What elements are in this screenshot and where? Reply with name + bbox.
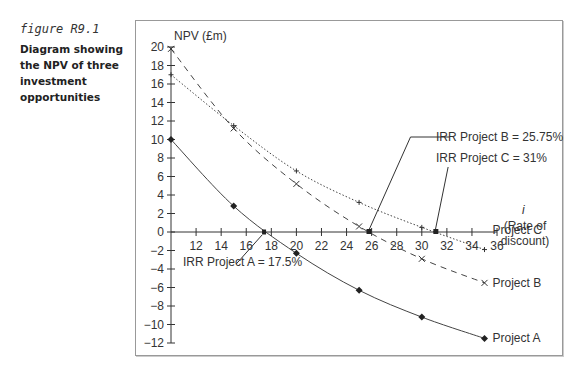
y-tick-label: −4 (150, 262, 164, 276)
x-axis-symbol: i (522, 203, 525, 217)
x-tick-label: 30 (415, 239, 429, 253)
x-tick-label: 16 (240, 239, 254, 253)
diamond-marker-icon (418, 314, 425, 321)
y-tick-label: 12 (151, 114, 165, 128)
y-axis-title: NPV (£m) (174, 29, 227, 43)
y-tick-label: 16 (151, 77, 165, 91)
plus-marker-icon (357, 200, 362, 205)
x-marker-icon (482, 280, 488, 286)
y-tick-label: −2 (150, 244, 164, 258)
irr-c-leader (435, 167, 448, 230)
y-tick-label: −10 (144, 318, 165, 332)
irr-b-label: IRR Project B = 25.75% (436, 130, 563, 144)
diamond-marker-icon (356, 287, 363, 294)
y-tick-label: 20 (151, 40, 165, 54)
x-marker-icon (419, 256, 425, 262)
y-tick-label: 2 (157, 207, 164, 221)
x-marker-icon (293, 181, 299, 187)
x-tick-label: 18 (265, 239, 279, 253)
x-axis-title-line1: (Rate of (504, 219, 547, 233)
y-tick-label: −12 (144, 336, 165, 350)
irr-b-marker-icon (367, 229, 372, 234)
plus-marker-icon (169, 72, 174, 77)
plus-marker-icon (482, 247, 487, 252)
x-tick-label: 32 (440, 239, 454, 253)
irr-c-label: IRR Project C = 31% (436, 151, 547, 165)
npv-chart: 20181614121086420−2−4−6−8−10−12121416182… (0, 0, 588, 378)
plus-marker-icon (294, 168, 299, 173)
plus-marker-icon (419, 225, 424, 230)
x-tick-label: 34 (465, 239, 479, 253)
x-tick-label: 24 (340, 239, 354, 253)
y-tick-label: 6 (157, 170, 164, 184)
axes: 20181614121086420−2−4−6−8−10−12121416182… (144, 40, 504, 350)
y-tick-label: 0 (157, 225, 164, 239)
y-tick-label: −6 (150, 281, 164, 295)
x-tick-label: 28 (390, 239, 404, 253)
diamond-marker-icon (481, 335, 488, 342)
y-tick-label: −8 (150, 299, 164, 313)
irr-a-label: IRR Project A = 17.5% (183, 255, 302, 269)
y-tick-label: 18 (151, 59, 165, 73)
y-tick-label: 4 (157, 188, 164, 202)
y-tick-label: 10 (151, 133, 165, 147)
x-axis-title-line2: discount) (501, 234, 550, 248)
y-tick-label: 8 (157, 151, 164, 165)
series-lines: Project AProject BProject C (168, 46, 543, 346)
irr-a-marker-icon (262, 230, 266, 235)
project-b-legend-label: Project B (493, 276, 542, 290)
irr-c-marker-icon (433, 229, 438, 234)
x-tick-label: 14 (214, 239, 228, 253)
project-a-legend-label: Project A (493, 331, 541, 345)
x-tick-label: 22 (315, 239, 329, 253)
x-tick-label: 26 (365, 239, 379, 253)
x-marker-icon (356, 223, 362, 229)
x-tick-label: 12 (189, 239, 203, 253)
y-tick-label: 14 (151, 96, 165, 110)
